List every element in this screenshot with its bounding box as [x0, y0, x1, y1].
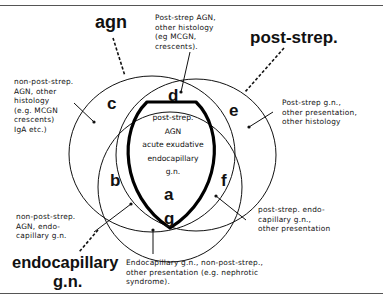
region-d-label: d: [168, 86, 178, 106]
f-pointer-dot: [214, 194, 217, 197]
agn-set-title: agn: [95, 12, 127, 33]
post-strep-title-leader: [245, 48, 284, 92]
center-text-line: g.n.: [128, 165, 218, 179]
agn-title-leader: [113, 38, 125, 76]
region-b-label: b: [110, 171, 120, 191]
center-text-line: post-strep.: [128, 111, 218, 125]
center-text-line: AGN: [128, 125, 218, 139]
annotation-g: Endocapillary g.n., non-post-strep., oth…: [126, 258, 263, 287]
center-text-line: endocapillary: [128, 152, 218, 166]
endocapillary-title-leader: [79, 230, 98, 252]
region-f-label: f: [221, 171, 227, 191]
center-region-text: post-strep. AGN acute exudative endocapi…: [128, 111, 218, 179]
e-pointer-dot: [247, 125, 250, 128]
c-pointer-dot: [92, 120, 95, 123]
b-pointer-dot: [129, 202, 132, 205]
annotation-d: Post-strep AGN, other histology (eg MCGN…: [155, 13, 216, 51]
endocapillary-set-title-line2: g.n.: [53, 272, 82, 291]
annotation-b: non-post-strep. AGN, endo- capillary g.n…: [16, 212, 75, 241]
region-c-label: c: [107, 94, 116, 114]
center-text-line: acute exudative: [128, 138, 218, 152]
g-pointer-dot: [151, 228, 154, 231]
c-pointer: [74, 103, 94, 122]
region-e-label: e: [229, 101, 238, 121]
region-g-label: g: [164, 209, 174, 229]
endocapillary-set-title-line1: endocapillary: [12, 253, 118, 272]
annotation-c: non-post-strep. AGN, other histology (e.…: [14, 77, 73, 135]
d-pointer: [181, 52, 190, 92]
post-strep-set-title: post-strep.: [250, 28, 338, 48]
annotation-f: post-strep. endo- capillary g.n., other …: [258, 205, 330, 234]
annotation-e: Post-strep g.n., other presentation, oth…: [282, 98, 357, 127]
region-a-label: a: [164, 185, 173, 205]
d-pointer-dot: [179, 90, 182, 93]
